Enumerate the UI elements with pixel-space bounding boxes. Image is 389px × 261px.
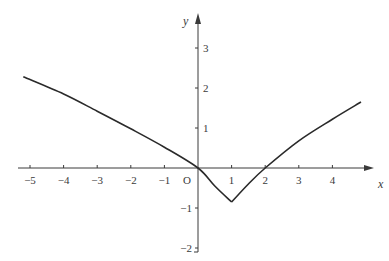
y-tick-label: −2	[180, 242, 192, 254]
x-tick-label: −1	[159, 174, 171, 186]
function-curve	[23, 77, 361, 202]
origin-label: O	[183, 174, 191, 186]
x-tick-label: 3	[296, 174, 302, 186]
y-tick-label: −1	[180, 202, 192, 214]
x-tick-label: −5	[24, 174, 36, 186]
axes	[18, 13, 374, 252]
x-tick-label: 2	[262, 174, 268, 186]
x-tick-label: 4	[330, 174, 336, 186]
x-tick-label: −4	[58, 174, 70, 186]
x-axis-arrow-icon	[364, 165, 374, 171]
y-tick-label: 2	[203, 82, 209, 94]
y-tick-label: 3	[203, 42, 209, 54]
x-tick-label: 1	[229, 174, 235, 186]
y-axis-arrow-icon	[195, 13, 201, 24]
y-tick-label: 1	[203, 122, 209, 134]
x-axis-label: x	[377, 177, 384, 191]
function-plot: −5−4−3−2−11234321−1−2 x y O	[0, 0, 389, 261]
x-tick-label: −2	[125, 174, 137, 186]
y-axis-label: y	[182, 14, 189, 28]
x-tick-label: −3	[91, 174, 103, 186]
ticks	[30, 48, 332, 248]
